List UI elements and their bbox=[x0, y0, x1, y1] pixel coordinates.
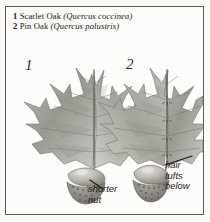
caption-scientific-name-1: (Quercus coccinea) bbox=[63, 11, 132, 21]
caption-entry-1: 1 Scarlet Oak (Quercus coccinea) bbox=[13, 11, 193, 21]
caption-common-name-2: Pin Oak bbox=[20, 21, 49, 31]
species-caption-block: 1 Scarlet Oak (Quercus coccinea) 2 Pin O… bbox=[13, 11, 193, 32]
field-guide-plate: 1 Scarlet Oak (Quercus coccinea) 2 Pin O… bbox=[0, 0, 210, 222]
annotation-hair-tufts-line-1: hair bbox=[165, 160, 190, 171]
annotation-shorter-nut: shorter nut bbox=[88, 184, 117, 205]
caption-number-1: 1 bbox=[13, 11, 17, 21]
annotation-shorter-nut-line-2: nut bbox=[88, 195, 117, 206]
caption-scientific-name-2: (Quercus palustris) bbox=[51, 21, 120, 31]
annotation-shorter-nut-line-1: shorter bbox=[88, 184, 117, 195]
caption-common-name-1: Scarlet Oak bbox=[20, 11, 61, 21]
acorn-pin-oak bbox=[133, 165, 169, 202]
annotation-hair-tufts-line-3: below bbox=[165, 181, 190, 192]
caption-number-2: 2 bbox=[13, 21, 17, 31]
annotation-hair-tufts-below: hair tufts below bbox=[165, 160, 190, 192]
caption-entry-2: 2 Pin Oak (Quercus palustris) bbox=[13, 21, 193, 31]
